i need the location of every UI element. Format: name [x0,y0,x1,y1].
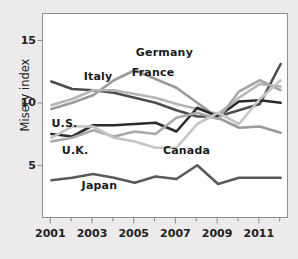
x-tick-label-2001: 2001 [28,227,72,240]
y-tick-label-15: 15 [8,34,36,47]
axis-ticks-svg [0,0,298,259]
misery-index-line-chart: Misery index 510152001200320052007200920… [0,0,298,259]
series-label-italy: Italy [84,70,113,83]
x-tick-label-2011: 2011 [237,227,281,240]
series-label-japan: Japan [82,179,118,192]
y-tick-label-5: 5 [8,159,36,172]
series-label-germany: Germany [136,46,193,59]
series-label-us: U.S. [51,117,77,130]
series-label-canada: Canada [163,144,210,157]
y-tick-label-10: 10 [8,96,36,109]
x-tick-label-2007: 2007 [153,227,197,240]
x-tick-label-2003: 2003 [70,227,114,240]
x-tick-label-2005: 2005 [112,227,156,240]
series-label-france: France [132,66,175,79]
series-label-uk: U.K. [62,144,89,157]
x-tick-label-2009: 2009 [195,227,239,240]
